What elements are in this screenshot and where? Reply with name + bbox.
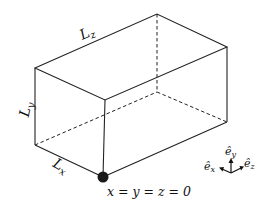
bottom-front-edge — [35, 145, 103, 177]
ez-label: êz — [244, 157, 256, 171]
ex-arrow-icon — [219, 167, 224, 172]
visible-edges — [35, 14, 227, 177]
origin-label: x = y = z = 0 — [107, 184, 191, 199]
lx-label: Lx — [49, 154, 72, 178]
ey-label: êy — [225, 145, 237, 159]
top-face — [35, 14, 227, 100]
axis-triad: êy êx êz — [204, 145, 256, 174]
front-vertical-edge — [103, 100, 105, 177]
ly-label: Ly — [16, 100, 37, 120]
box-diagram: Lz Ly Lx x = y = z = 0 êy êx êz — [0, 0, 271, 207]
hidden-bottom-right-edge — [157, 92, 227, 122]
hidden-bottom-left-edge — [35, 92, 157, 145]
origin-dot — [98, 172, 109, 183]
ex-label: êx — [204, 160, 216, 174]
